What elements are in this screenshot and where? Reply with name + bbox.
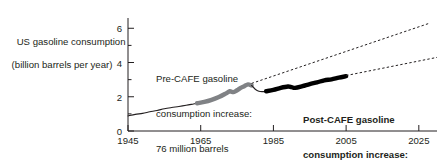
- x-axis-tick-label: 2025: [408, 135, 429, 146]
- y-axis-tick-label: 6: [104, 23, 122, 34]
- series-early-history: [128, 103, 197, 116]
- series-pre-cafe-growth: [197, 84, 252, 103]
- axes: [128, 18, 437, 131]
- y-axis-tick-label: 2: [104, 91, 122, 102]
- x-axis-tick-label: 1985: [263, 135, 284, 146]
- series-cafe-transition: [252, 85, 267, 91]
- x-axis-tick-label: 1945: [117, 135, 138, 146]
- gasoline-consumption-chart: US gasoline consumption (billion barrels…: [0, 0, 441, 161]
- y-axis-tick-label: 4: [104, 57, 122, 68]
- x-axis-tick-label: 1965: [190, 135, 211, 146]
- data-series: [128, 23, 437, 116]
- plot-area: [0, 0, 441, 161]
- x-axis-tick-label: 2005: [335, 135, 356, 146]
- series-post-cafe-trend-extrapolation: [346, 57, 437, 75]
- series-post-cafe-growth: [266, 76, 346, 91]
- x-axis-ticks: [128, 125, 419, 131]
- series-pre-cafe-trend-extrapolation: [252, 23, 430, 83]
